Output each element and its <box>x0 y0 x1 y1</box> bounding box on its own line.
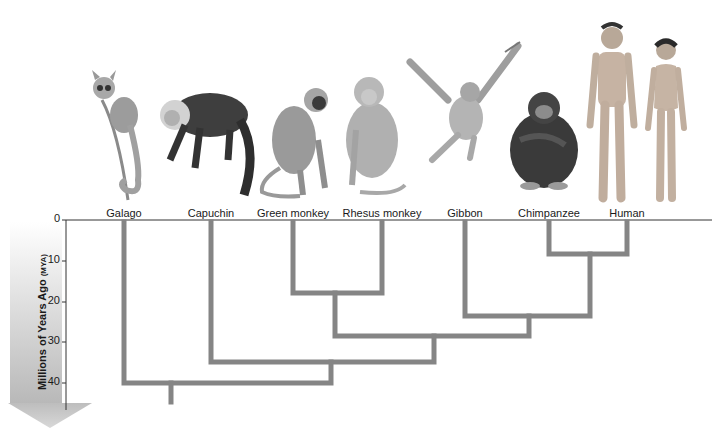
axis-title-text: Millions of Years Ago <box>36 279 48 390</box>
branch-apes <box>465 222 590 316</box>
green-monkey-illustration <box>262 88 328 197</box>
branch-primates <box>124 222 331 383</box>
tree-canvas <box>0 0 712 444</box>
tick-label-0: 0 <box>40 212 60 224</box>
taxon-label-galago: Galago <box>106 207 141 219</box>
galago-illustration <box>92 70 138 200</box>
taxon-label-capuchin: Capuchin <box>188 207 234 219</box>
taxon-label-rhesus-monkey: Rhesus monkey <box>343 207 422 219</box>
taxon-label-human: Human <box>609 207 644 219</box>
human-female-illustration <box>648 40 684 198</box>
branch-old-world-monkeys <box>293 222 382 293</box>
rhesus-monkey-illustration <box>346 77 405 193</box>
phylogeny-figure: Galago Capuchin Green monkey Rhesus monk… <box>0 0 712 444</box>
tree-branches <box>124 222 627 402</box>
gibbon-illustration <box>410 42 520 160</box>
taxon-label-chimpanzee: Chimpanzee <box>518 207 580 219</box>
axis-title: Millions of Years Ago (MYA) <box>36 254 48 390</box>
taxon-label-green-monkey: Green monkey <box>257 207 329 219</box>
chimpanzee-illustration <box>510 92 578 190</box>
branch-chimp-human <box>549 222 627 254</box>
taxon-label-gibbon: Gibbon <box>447 207 482 219</box>
capuchin-illustration <box>160 93 250 195</box>
axis-unit: (MYA) <box>39 254 48 276</box>
human-male-illustration <box>590 24 634 198</box>
